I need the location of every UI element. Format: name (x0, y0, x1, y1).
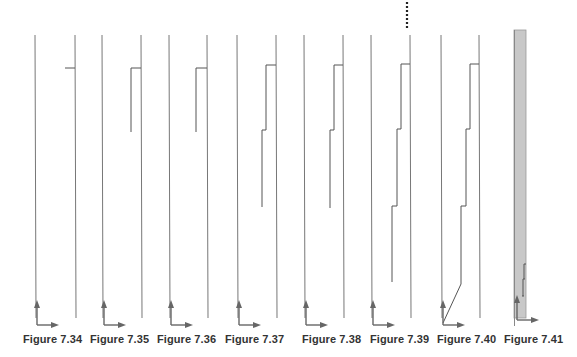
caption-figure-7-39: Figure 7.39 (370, 333, 429, 345)
right-boundary-line (141, 35, 142, 318)
caption-figure-7-41: Figure 7.41 (504, 333, 563, 345)
x-arrowhead-icon (118, 322, 126, 328)
right-boundary-line (75, 35, 76, 318)
x-arrowhead-icon (387, 322, 395, 328)
right-boundary-line (479, 35, 480, 318)
left-boundary-line (169, 35, 170, 318)
y-arrowhead-icon (303, 300, 309, 308)
x-arrowhead-icon (531, 317, 539, 323)
y-arrowhead-icon (34, 300, 40, 308)
left-boundary-line (35, 35, 36, 318)
caption-figure-7-35: Figure 7.35 (90, 333, 149, 345)
y-arrowhead-icon (370, 300, 376, 308)
x-arrowhead-icon (51, 322, 59, 328)
left-boundary-line (237, 35, 238, 318)
right-boundary-line (410, 35, 411, 318)
y-arrowhead-icon (101, 300, 107, 308)
y-arrowhead-icon (168, 300, 174, 308)
left-boundary-line (102, 35, 103, 318)
x-arrowhead-icon (253, 322, 261, 328)
left-boundary-line (441, 35, 442, 318)
caption-figure-7-40: Figure 7.40 (437, 333, 496, 345)
left-boundary-line (371, 35, 372, 318)
caption-figure-7-37: Figure 7.37 (225, 333, 284, 345)
right-boundary-line (343, 35, 344, 318)
left-boundary-line (304, 35, 305, 318)
caption-figure-7-36: Figure 7.36 (157, 333, 216, 345)
right-boundary-line (276, 35, 277, 318)
figure-series-canvas (0, 0, 577, 357)
right-boundary-line (207, 35, 208, 318)
x-arrowhead-icon (457, 322, 465, 328)
diagonal-segment (443, 284, 461, 323)
caption-figure-7-34: Figure 7.34 (23, 333, 82, 345)
y-arrowhead-icon (236, 300, 242, 308)
x-arrowhead-icon (185, 322, 193, 328)
caption-figure-7-38: Figure 7.38 (302, 333, 361, 345)
y-arrowhead-icon (440, 300, 446, 308)
x-arrowhead-icon (320, 322, 328, 328)
